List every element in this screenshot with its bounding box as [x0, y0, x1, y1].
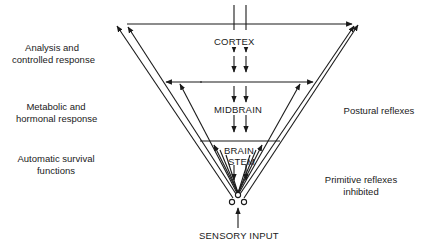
brainstem-function-label: Automatic survival functions	[16, 153, 96, 177]
brainstem-label-line2: STEM	[228, 156, 255, 167]
postural-reflexes-label: Postural reflexes	[339, 105, 419, 117]
cortex-label: CORTEX	[213, 36, 256, 47]
sensory-input-label: SENSORY INPUT	[199, 230, 279, 241]
midbrain-function-label: Metabolic and hormonal response	[16, 101, 96, 125]
input-node	[235, 192, 240, 197]
brainstem-label-line1: BRAIN	[224, 145, 254, 156]
cortex-function-label: Analysis and controlled response	[12, 42, 92, 66]
midbrain-label: MIDBRAIN	[213, 104, 263, 115]
input-node	[241, 199, 246, 204]
primitive-reflexes-label: Primitive reflexes inhibited	[321, 174, 401, 198]
input-node	[229, 199, 234, 204]
